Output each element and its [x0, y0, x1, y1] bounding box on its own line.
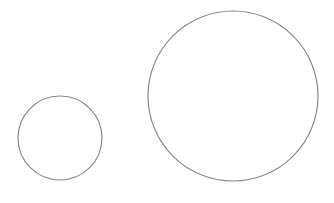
large-circle: [148, 11, 318, 181]
small-circle: [18, 96, 102, 180]
diagram-canvas: [0, 0, 334, 203]
